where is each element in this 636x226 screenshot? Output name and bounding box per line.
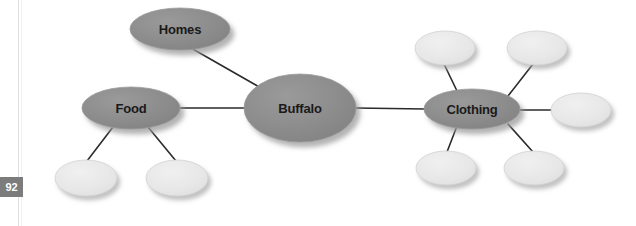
node-clothing-child-5[interactable] (504, 151, 564, 185)
node-clothing-child-4[interactable] (416, 151, 476, 185)
node-label-clothing: Clothing (446, 102, 497, 117)
node-clothing-child-2[interactable] (507, 31, 567, 65)
node-clothing-child-1[interactable] (415, 31, 475, 65)
book-page: 92 BuffaloHomesFoodClothin (0, 0, 636, 226)
edge-buffalo-clothing (356, 108, 425, 109)
node-label-homes: Homes (159, 22, 201, 37)
edge-clothing-c1 (444, 64, 458, 93)
edge-clothing-c4 (447, 126, 457, 152)
edge-food-c1 (87, 127, 113, 161)
node-clothing-child-3[interactable] (551, 93, 611, 127)
edge-clothing-c5 (508, 124, 533, 152)
node-food-child-1[interactable] (55, 160, 117, 196)
node-label-food: Food (116, 101, 147, 116)
edge-food-c2 (148, 127, 176, 161)
edge-homes-buffalo (191, 48, 268, 92)
concept-map-diagram: BuffaloHomesFoodClothing (0, 0, 636, 226)
edge-clothing-c2 (508, 64, 533, 96)
node-label-buffalo: Buffalo (278, 101, 322, 116)
node-food-child-2[interactable] (146, 160, 208, 196)
